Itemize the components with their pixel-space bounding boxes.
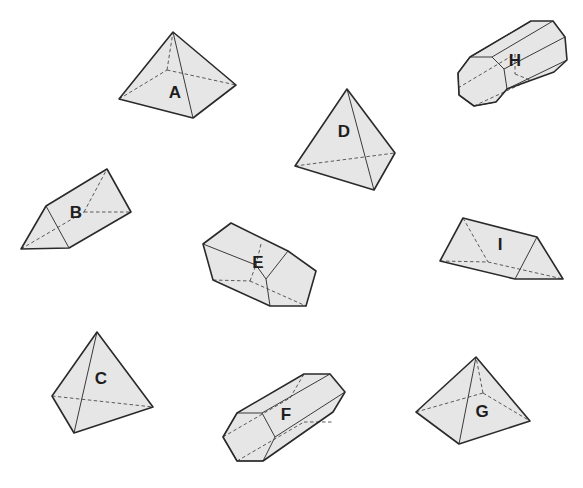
label-g: G bbox=[475, 402, 488, 421]
label-a: A bbox=[169, 83, 181, 102]
shape-d: D bbox=[295, 89, 395, 190]
label-e: E bbox=[252, 253, 263, 272]
label-d: D bbox=[338, 122, 350, 141]
shape-g: G bbox=[416, 357, 530, 444]
shape-e: E bbox=[203, 223, 316, 306]
label-c: C bbox=[95, 369, 107, 388]
shape-f: F bbox=[223, 374, 345, 461]
solids-figure: A H D B bbox=[0, 0, 583, 488]
label-h: H bbox=[509, 51, 521, 70]
shape-i: I bbox=[440, 218, 563, 279]
shape-a: A bbox=[119, 32, 236, 118]
shape-h: H bbox=[458, 21, 567, 106]
label-b: B bbox=[70, 203, 82, 222]
shape-c: C bbox=[52, 332, 153, 433]
label-i: I bbox=[498, 235, 503, 254]
label-f: F bbox=[281, 405, 291, 424]
shape-b: B bbox=[21, 169, 131, 249]
